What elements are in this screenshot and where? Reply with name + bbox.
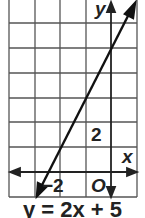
y-axis-arrow-down-icon — [107, 187, 115, 197]
axes — [10, 2, 137, 197]
origin-label: O — [91, 175, 106, 197]
line-arrow-top-icon — [125, 3, 135, 18]
y-axis-label: y — [95, 0, 106, 20]
x-axis-label: x — [122, 146, 133, 168]
y-axis-arrow-up-icon — [107, 2, 115, 12]
x-tick-label: −2 — [42, 175, 64, 197]
x-axis-arrow-left-icon — [10, 168, 20, 176]
equation-caption: y = 2x + 5 — [0, 197, 145, 218]
coordinate-graph — [0, 0, 145, 218]
grid — [9, 0, 137, 197]
x-axis-arrow-right-icon — [127, 168, 137, 176]
y-tick-label: 2 — [91, 124, 102, 146]
